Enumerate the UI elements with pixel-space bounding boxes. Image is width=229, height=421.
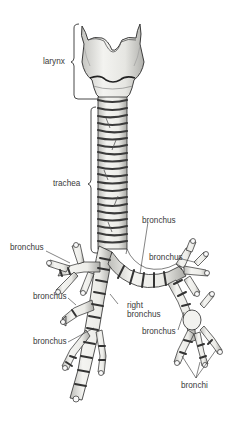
respiratory-diagram: larynx trachea bronchus bronchus bronchu… (0, 0, 229, 421)
label-bronchi: bronchi (181, 381, 208, 390)
trachea-shape (98, 97, 127, 249)
label-larynx: larynx (43, 57, 65, 66)
label-bronchus-mid-left: bronchus (33, 292, 67, 301)
label-bronchus-lower-right: bronchus (142, 327, 176, 336)
label-bronchus-lower-left: bronchus (33, 337, 67, 346)
label-bronchus-upper-left: bronchus (10, 243, 44, 252)
label-right-bronchus-line1: right (127, 301, 143, 310)
label-bronchus-top-right: bronchus (142, 216, 176, 225)
label-trachea: trachea (53, 179, 80, 188)
label-bronchus-right-branch: bronchus (149, 253, 183, 262)
larynx-shape (81, 24, 144, 98)
label-right-bronchus-line2: bronchus (127, 310, 161, 319)
airway-illustration (0, 0, 229, 421)
